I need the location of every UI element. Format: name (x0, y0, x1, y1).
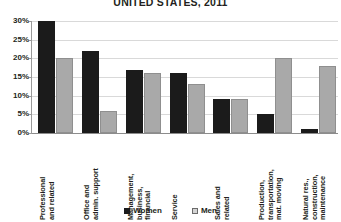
legend-label: Women (133, 206, 162, 215)
plot-area: 0%5%10%15%20%25%30% (31, 21, 338, 133)
bars-layer (32, 21, 338, 133)
y-axis-tick-mark (29, 133, 32, 134)
chart-title: UNITED STATES, 2011 (0, 0, 341, 10)
bar-women (213, 99, 230, 133)
bar-men (144, 73, 161, 133)
bar-men (188, 84, 205, 133)
bar-women (257, 114, 274, 133)
bar-group (301, 21, 336, 133)
bar-women (126, 70, 143, 133)
bar-group (38, 21, 73, 133)
legend-swatch-icon (192, 208, 198, 214)
legend-item-women[interactable]: Women (124, 206, 162, 215)
y-axis-tick-label: 20% (1, 54, 29, 62)
legend-label: Men (201, 206, 217, 215)
bar-men (231, 99, 248, 133)
bar-men (100, 111, 117, 133)
bar-group (213, 21, 248, 133)
y-axis-tick-label: 25% (1, 36, 29, 44)
bar-women (38, 21, 55, 133)
bar-group (82, 21, 117, 133)
bar-men (56, 58, 73, 133)
bar-chart: UNITED STATES, 2011 0%5%10%15%20%25%30% … (0, 0, 341, 222)
bar-group (257, 21, 292, 133)
bar-women (301, 129, 318, 133)
bar-group (126, 21, 161, 133)
bar-women (170, 73, 187, 133)
y-axis-tick-label: 30% (1, 17, 29, 25)
legend-swatch-icon (124, 208, 130, 214)
bar-men (319, 66, 336, 133)
y-axis-tick-label: 15% (1, 73, 29, 81)
chart-legend: WomenMen (0, 206, 341, 215)
y-axis-tick-label: 0% (1, 129, 29, 137)
bar-women (82, 51, 99, 133)
gridline (32, 133, 338, 134)
bar-group (170, 21, 205, 133)
legend-item-men[interactable]: Men (192, 206, 217, 215)
y-axis-tick-label: 10% (1, 92, 29, 100)
bar-men (275, 58, 292, 133)
y-axis-tick-label: 5% (1, 110, 29, 118)
